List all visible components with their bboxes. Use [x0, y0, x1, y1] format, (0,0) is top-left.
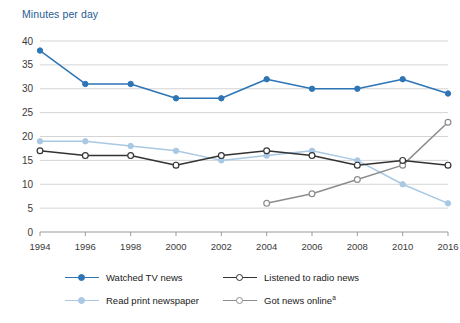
y-axis-tick-label-25: 25: [22, 107, 34, 118]
data-point-read-print-newspaper-2010: [400, 182, 405, 187]
data-point-read-print-newspaper-1998: [128, 143, 133, 148]
legend-label-watched-tv-news: Watched TV news: [106, 272, 183, 283]
legend-footnote-marker: a: [332, 294, 336, 301]
data-point-got-news-online-2004: [264, 200, 270, 206]
x-axis-tick-label-1996: 1996: [75, 241, 96, 252]
x-axis-tick-label-2010: 2010: [392, 241, 413, 252]
x-axis-tick-label-2004: 2004: [256, 241, 277, 252]
x-axis-tick-label-2008: 2008: [347, 241, 368, 252]
legend-item-read-print-newspaper[interactable]: Read print newspaper: [65, 295, 223, 306]
data-point-listened-to-radio-news-1994: [37, 148, 43, 154]
y-axis-tick-label-0: 0: [27, 227, 33, 238]
chart-legend: Watched TV news Listened to radio news R…: [0, 266, 460, 312]
legend-item-watched-tv-news[interactable]: Watched TV news: [65, 272, 223, 283]
legend-swatch-listened-to-radio-news: [223, 273, 257, 283]
y-axis-tick-label-30: 30: [22, 83, 34, 94]
series-line-watched-tv-news: [40, 51, 448, 99]
data-point-watched-tv-news-2000: [173, 96, 178, 101]
y-axis-tick-label-20: 20: [22, 131, 34, 142]
data-point-watched-tv-news-2016: [445, 91, 450, 96]
data-point-watched-tv-news-1996: [83, 81, 88, 86]
legend-marker-got-news-online: [236, 297, 243, 304]
data-point-listened-to-radio-news-1996: [82, 153, 88, 159]
data-point-read-print-newspaper-2000: [173, 148, 178, 153]
y-axis-tick-label-15: 15: [22, 155, 34, 166]
data-point-listened-to-radio-news-1998: [128, 153, 134, 159]
legend-marker-watched-tv-news: [78, 274, 85, 281]
legend-row-1: Watched TV news Listened to radio news: [0, 266, 460, 289]
legend-marker-listened-to-radio-news: [236, 274, 243, 281]
data-point-watched-tv-news-2010: [400, 77, 405, 82]
x-axis-tick-label-2016: 2016: [437, 241, 458, 252]
legend-swatch-watched-tv-news: [65, 273, 99, 283]
legend-marker-read-print-newspaper: [78, 297, 85, 304]
legend-swatch-got-news-online: [223, 296, 257, 306]
legend-label-text-got-news-online: Got news online: [264, 296, 332, 307]
data-point-listened-to-radio-news-2002: [218, 153, 224, 159]
legend-label-listened-to-radio-news: Listened to radio news: [264, 272, 359, 283]
x-axis-tick-label-1994: 1994: [29, 241, 50, 252]
data-point-watched-tv-news-2002: [219, 96, 224, 101]
y-axis-tick-label-5: 5: [27, 203, 33, 214]
y-axis-tick-label-35: 35: [22, 59, 34, 70]
chart-container: Minutes per day 051015202530354019941996…: [0, 0, 460, 323]
data-point-listened-to-radio-news-2004: [264, 148, 270, 154]
data-point-got-news-online-2008: [354, 177, 360, 183]
data-point-watched-tv-news-2004: [264, 77, 269, 82]
data-point-read-print-newspaper-2016: [445, 201, 450, 206]
data-point-got-news-online-2006: [309, 191, 315, 197]
legend-label-got-news-online: Got news onlinea: [264, 294, 336, 306]
data-point-read-print-newspaper-1996: [83, 139, 88, 144]
data-point-listened-to-radio-news-2016: [445, 162, 451, 168]
data-point-watched-tv-news-2006: [309, 86, 314, 91]
y-axis-tick-label-40: 40: [22, 36, 34, 47]
data-point-watched-tv-news-1994: [37, 48, 42, 53]
data-point-listened-to-radio-news-2000: [173, 162, 179, 168]
data-point-listened-to-radio-news-2006: [309, 153, 315, 159]
data-point-listened-to-radio-news-2008: [354, 162, 360, 168]
x-axis-tick-label-2002: 2002: [211, 241, 232, 252]
y-axis-tick-label-10: 10: [22, 179, 34, 190]
x-axis-tick-label-1998: 1998: [120, 241, 141, 252]
legend-swatch-read-print-newspaper: [65, 296, 99, 306]
legend-item-got-news-online[interactable]: Got news onlinea: [223, 294, 395, 306]
data-point-watched-tv-news-1998: [128, 81, 133, 86]
legend-row-2: Read print newspaper Got news onlinea: [0, 289, 460, 312]
x-axis-tick-label-2000: 2000: [165, 241, 186, 252]
data-point-listened-to-radio-news-2010: [400, 157, 406, 163]
data-point-got-news-online-2016: [445, 119, 451, 125]
data-point-read-print-newspaper-1994: [37, 139, 42, 144]
legend-item-listened-to-radio-news[interactable]: Listened to radio news: [223, 272, 395, 283]
legend-label-read-print-newspaper: Read print newspaper: [106, 295, 199, 306]
x-axis-tick-label-2006: 2006: [301, 241, 322, 252]
series-read-print-newspaper: [37, 139, 450, 206]
series-watched-tv-news: [37, 48, 450, 101]
series-line-read-print-newspaper: [40, 141, 448, 203]
data-point-watched-tv-news-2008: [355, 86, 360, 91]
